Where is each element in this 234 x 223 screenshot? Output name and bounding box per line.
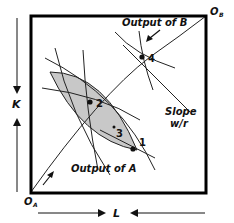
l-axis-label: L xyxy=(113,207,120,220)
point-4 xyxy=(139,54,144,59)
k-axis-label: K xyxy=(12,98,22,111)
point-1 xyxy=(130,146,135,151)
output-a-label: Output of A xyxy=(71,163,136,174)
origin-b-subscript: B xyxy=(219,11,224,18)
slope-label-line2: w/r xyxy=(170,118,189,129)
k-up-arrowhead-icon xyxy=(13,118,21,126)
edgeworth-box-diagram: 1 2 3 4 Output of B Output of A Slope w/… xyxy=(0,0,234,223)
k-down-arrowhead-icon xyxy=(13,86,21,94)
origin-b-label: O xyxy=(210,6,219,17)
point-4-label: 4 xyxy=(148,53,155,64)
output-b-label: Output of B xyxy=(122,17,187,28)
point-2 xyxy=(87,99,92,104)
point-2-label: 2 xyxy=(96,98,103,109)
output-a-arrowhead-icon xyxy=(47,171,54,178)
point-1-label: 1 xyxy=(139,137,146,148)
slope-line xyxy=(123,45,190,112)
slope-label-line1: Slope xyxy=(165,106,197,117)
output-b-arrow-icon xyxy=(150,30,160,38)
l-right-arrowhead-icon xyxy=(98,209,106,217)
origin-a-label: O xyxy=(24,196,33,207)
origin-a-subscript: A xyxy=(32,201,38,208)
point-3-label: 3 xyxy=(116,128,123,139)
